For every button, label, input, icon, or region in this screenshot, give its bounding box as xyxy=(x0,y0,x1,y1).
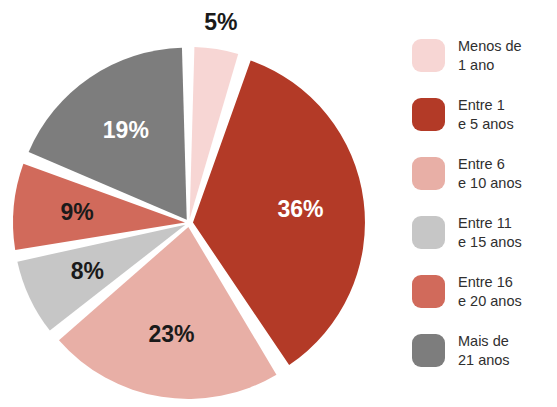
legend-item[interactable]: Entre 11 e 15 anos xyxy=(412,213,557,272)
pie-slice-label: 8% xyxy=(71,258,104,284)
pie-slice-label: 19% xyxy=(103,117,149,143)
legend-swatch xyxy=(412,334,445,367)
legend-swatch xyxy=(412,216,445,249)
legend-item[interactable]: Mais de 21 anos xyxy=(412,331,557,390)
pie-slice-label: 9% xyxy=(61,199,94,225)
legend-item[interactable]: Entre 16 e 20 anos xyxy=(412,272,557,331)
legend-swatch xyxy=(412,275,445,308)
legend-label: Entre 16 e 20 anos xyxy=(458,272,522,311)
legend-label: Menos de 1 ano xyxy=(458,36,522,75)
pie-plot-area: 5%36%23%8%9%19% xyxy=(0,0,400,407)
legend-swatch xyxy=(412,98,445,131)
legend-label: Entre 1 e 5 anos xyxy=(458,95,514,134)
legend-label: Mais de 21 anos xyxy=(458,331,510,370)
legend-label: Entre 6 e 10 anos xyxy=(458,154,522,193)
legend-swatch xyxy=(412,39,445,72)
pie-chart-figure: 5%36%23%8%9%19% Menos de 1 anoEntre 1 e … xyxy=(0,0,557,407)
pie-slice-label: 5% xyxy=(204,9,237,35)
legend-item[interactable]: Menos de 1 ano xyxy=(412,36,557,95)
pie-slice-label: 36% xyxy=(277,196,323,222)
legend-item[interactable]: Entre 1 e 5 anos xyxy=(412,95,557,154)
chart-legend: Menos de 1 anoEntre 1 e 5 anosEntre 6 e … xyxy=(412,36,557,390)
legend-swatch xyxy=(412,157,445,190)
legend-label: Entre 11 e 15 anos xyxy=(458,213,522,252)
pie-slice-label: 23% xyxy=(148,321,194,347)
legend-item[interactable]: Entre 6 e 10 anos xyxy=(412,154,557,213)
pie-svg: 5%36%23%8%9%19% xyxy=(0,0,400,407)
